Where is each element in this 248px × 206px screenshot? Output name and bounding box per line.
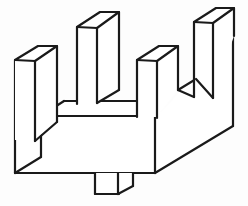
- prong-3-front-face: [137, 60, 157, 117]
- prong-2: [77, 12, 119, 104]
- prong-1: [15, 46, 57, 141]
- prong-2-front-face: [77, 27, 97, 103]
- isometric-figure-canvas: Black-and-white axonometric line drawing…: [0, 0, 248, 206]
- isometric-block-drawing: Isometric comb-shaped block: [0, 0, 248, 206]
- bottom-peg: [95, 173, 133, 194]
- peg-front-face: [95, 173, 118, 194]
- prong-1-front-face: [15, 60, 35, 140]
